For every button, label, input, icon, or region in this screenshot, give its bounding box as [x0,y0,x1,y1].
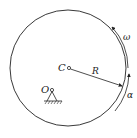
label-alpha: α [127,90,133,100]
label-r: R [91,66,99,76]
disk-diagram: C R O ω α [0,0,137,138]
pivot-point-o [50,88,53,91]
ground-hatch-icon [45,101,62,104]
label-o: O [41,84,49,95]
label-omega: ω [123,32,131,42]
diagram-svg: C R O ω α [0,0,137,138]
center-point-c [67,66,70,69]
label-c: C [58,62,66,73]
